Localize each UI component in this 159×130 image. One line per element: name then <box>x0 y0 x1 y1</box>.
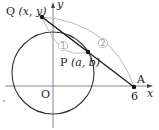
point-P <box>86 50 90 54</box>
label-6: 6 <box>131 90 138 103</box>
y-axis <box>51 2 55 128</box>
label-P: P (a, b) <box>60 56 100 69</box>
point-A <box>132 85 136 89</box>
label-y: y <box>56 0 64 11</box>
stray-dot <box>3 100 5 102</box>
label-2: 2 <box>100 39 105 48</box>
label-O: O <box>41 88 50 101</box>
label-x: x <box>147 87 154 100</box>
label-A: A <box>136 73 146 86</box>
label-1: 1 <box>60 42 65 51</box>
diagram: 1 2 Q (x, y) P (a, b) A 6 x y O <box>0 0 159 130</box>
label-Q: Q (x, y) <box>6 5 47 18</box>
